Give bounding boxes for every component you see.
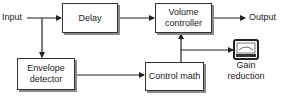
compressor-block-diagram: Input Output Delay Volume controller Env… — [0, 0, 282, 99]
gain-meter-icon — [0, 0, 282, 99]
gain-reduction-label-line1: Gain — [228, 60, 264, 71]
gain-reduction-label-line2: reduction — [224, 71, 268, 82]
